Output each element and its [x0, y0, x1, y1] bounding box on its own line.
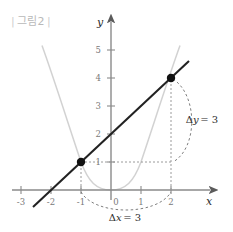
- x-tick-label--3: -3: [17, 197, 25, 207]
- y-tick-label-4: 4: [96, 73, 101, 83]
- x-tick-label-0: 0: [113, 197, 118, 207]
- x-tick-label-1: 1: [138, 197, 143, 207]
- y-tick-label-5: 5: [96, 45, 101, 55]
- point-a: [77, 158, 85, 166]
- point-b: [167, 74, 175, 82]
- x-axis-label: x: [206, 195, 213, 208]
- delta-x-arc: [81, 192, 171, 210]
- delta-x-value: = 3: [123, 212, 141, 223]
- delta-y-symbol: Δ: [186, 114, 193, 125]
- x-tick-label-2: 2: [168, 197, 173, 207]
- delta-x-symbol: Δ: [109, 212, 116, 223]
- delta-y-label: Δy= 3: [186, 114, 218, 125]
- delta-y-value: = 3: [200, 114, 218, 125]
- coordinate-plot: -3 -2 -1 0 1 2 1 2 3 4 5 y x Δx= 3: [0, 0, 233, 232]
- x-tick-label--2: -2: [47, 197, 55, 207]
- x-tick-label--1: -1: [77, 197, 85, 207]
- delta-y-variable: y: [192, 114, 199, 125]
- figure-container: |그림2| -3 -2: [0, 0, 233, 232]
- y-axis-label: y: [96, 16, 104, 29]
- delta-x-label: Δx= 3: [109, 212, 141, 223]
- y-tick-label-2: 2: [96, 129, 101, 139]
- delta-x-variable: x: [116, 212, 122, 223]
- y-tick-label-3: 3: [96, 101, 101, 111]
